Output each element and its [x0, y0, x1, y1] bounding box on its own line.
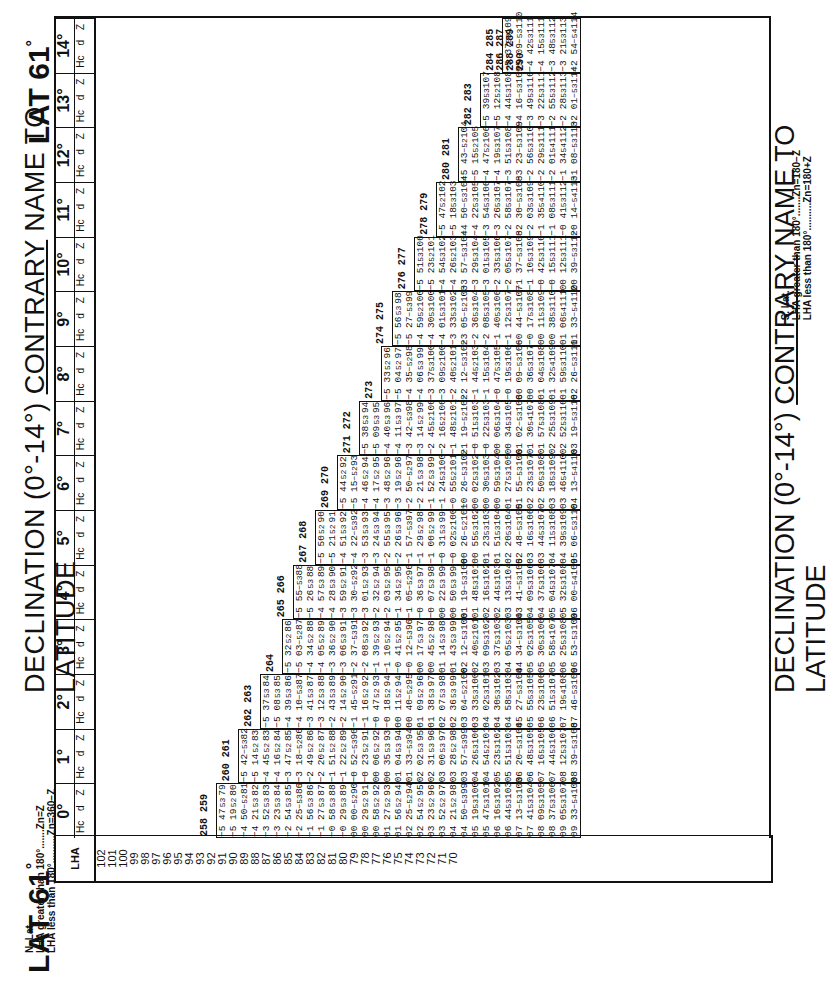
cell-d: 52 [393, 687, 404, 699]
cell-hc: 03 00 [437, 754, 448, 783]
cell-z: 83 [250, 730, 261, 742]
column-subheaders: HcdZ [74, 238, 86, 292]
table-row: 02 5253110 [558, 402, 569, 455]
subheader-hc: Hc [75, 329, 86, 341]
cell-d: 53 [382, 414, 393, 426]
cell-z: 96 [426, 784, 437, 796]
cell-hc: −1 39 [371, 644, 382, 673]
table-row: −3 42−5398 [404, 402, 415, 455]
cell-z: 101 [470, 563, 481, 580]
cell-hc: 01 23 [481, 535, 492, 564]
cell-d: −53 [459, 794, 470, 808]
cell-hc: −2 01 [547, 152, 558, 181]
cell-z: 108 [558, 672, 569, 689]
subheader-hc: Hc [75, 219, 86, 231]
cell-z: 95 [371, 402, 382, 414]
table-row: −1 3554110 [536, 183, 547, 236]
cell-z: 98 [415, 456, 426, 468]
cell-hc: −2 33 [492, 262, 503, 291]
cell-z: 84 [261, 675, 272, 687]
cell-hc: 06 00 [569, 590, 580, 619]
cell-d: 52 [316, 742, 327, 754]
cell-hc: 02 31 [426, 754, 437, 783]
table-row: −2 37−5391 [349, 620, 360, 673]
cell-z: 104 [470, 235, 481, 252]
cell-d: 53 [338, 796, 349, 808]
cell-z: 98 [426, 566, 437, 578]
lha-continuation-label: 280 281 [442, 138, 452, 180]
cell-z: 106 [492, 290, 503, 307]
cell-z: 106 [536, 563, 547, 580]
cell-hc: −1 34 [393, 590, 404, 619]
cell-z: 103 [448, 235, 459, 252]
table-row: −2 085392 [360, 620, 371, 673]
cell-d: 53 [492, 471, 503, 481]
cell-d: 53 [481, 526, 492, 536]
table-row: 02 315396 [426, 730, 437, 783]
cell-d: 53 [536, 799, 547, 809]
cell-d: 53 [547, 744, 558, 754]
cell-d: 53 [481, 362, 492, 372]
cell-d: −52 [404, 794, 415, 808]
cell-z: 100 [448, 508, 459, 525]
cell-d: 53 [470, 799, 481, 809]
cell-z: 105 [525, 727, 536, 744]
cell-hc: 05 55 [525, 699, 536, 728]
cell-hc: 00 36 [525, 371, 536, 400]
cell-d: 53 [481, 198, 492, 208]
cell-z: 101 [426, 235, 437, 252]
cell-z: 103 [481, 399, 492, 416]
table-row: 00 00−5290 [349, 784, 360, 837]
table-row: −5 325286 [283, 620, 294, 673]
table-row: 00 5953104 [492, 456, 503, 509]
cell-d: 53 [558, 635, 569, 645]
cell-z: 109 [558, 508, 569, 525]
cell-z: 82 [239, 728, 250, 739]
cell-hc: −1 10 [382, 644, 393, 673]
table-row: −3 5453106 [481, 183, 492, 236]
table-row: −0 14−54113 [569, 183, 580, 236]
cell-hc: −5 39 [481, 98, 492, 127]
cell-z: 105 [503, 454, 514, 471]
subheader-hc: Hc [75, 274, 86, 286]
cell-hc: −1 22 [338, 754, 349, 783]
cell-z: 107 [558, 727, 569, 744]
table-row: −5 385394 [360, 402, 371, 455]
cell-d: 52 [448, 362, 459, 372]
cell-z: 104 [470, 290, 481, 307]
table-row: −1 57−5397 [404, 511, 415, 564]
cell-d: 53 [503, 198, 514, 208]
table-row: −2 01−53114 [569, 74, 580, 127]
cell-hc: −0 02 [448, 535, 459, 564]
cell-d: 53 [250, 796, 261, 808]
cell-d: 52 [415, 796, 426, 808]
cell-d: 53 [503, 143, 514, 153]
cell-hc: −3 47 [283, 754, 294, 783]
cell-d: 53 [481, 580, 492, 590]
cell-hc: 05 19 [470, 808, 481, 837]
table-row: 03 1853109 [547, 456, 558, 509]
cell-d: 53 [481, 471, 492, 481]
cell-d: −52 [459, 302, 470, 316]
cell-d: 53 [547, 799, 558, 809]
cell-z: 110 [536, 235, 547, 252]
cell-d: −54 [569, 466, 580, 480]
column-subheaders: HcdZ [74, 620, 86, 674]
cell-hc: 03 18 [547, 480, 558, 509]
table-row: −1 525399 [426, 456, 437, 509]
cell-hc: −5 15 [470, 152, 481, 181]
cell-hc: 04 30 [492, 699, 503, 728]
cell-z: 92 [349, 509, 360, 520]
table-row: 05 0453107 [547, 566, 558, 619]
cell-hc: −2 56 [525, 152, 536, 181]
table-row: 04 13−54110 [569, 456, 580, 509]
declination-col-9: 9°HcdZ [54, 291, 94, 346]
cell-d: 53 [492, 307, 503, 317]
cell-hc: −4 15 [536, 43, 547, 72]
cell-z: 105 [536, 782, 547, 799]
table-row: −5 1552105 [470, 128, 481, 181]
table-row: 02 4453103 [492, 566, 503, 619]
subheader-z: Z [75, 24, 86, 30]
table-row: 03 4453107 [536, 511, 547, 564]
cell-hc: 06 51 [547, 699, 558, 728]
